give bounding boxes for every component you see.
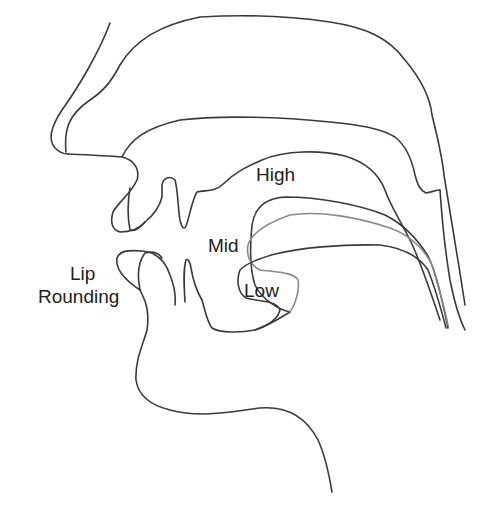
nasal-floor <box>68 117 440 193</box>
tongue-mid <box>248 213 449 325</box>
lower-lip <box>117 251 175 305</box>
label-lip: Lip <box>70 263 95 285</box>
nose-outline <box>51 23 110 154</box>
chin-and-neck <box>136 290 332 492</box>
vocal-tract-diagram: High Mid Low Lip Rounding <box>0 0 504 513</box>
lower-incisor <box>184 259 202 302</box>
label-low: Low <box>244 280 279 302</box>
label-rounding: Rounding <box>38 286 119 308</box>
vocal-tract-drawing <box>0 0 504 513</box>
upper-incisor <box>128 188 145 231</box>
head-outline-upper <box>66 16 465 305</box>
label-mid: Mid <box>208 235 239 257</box>
label-high: High <box>256 164 295 186</box>
